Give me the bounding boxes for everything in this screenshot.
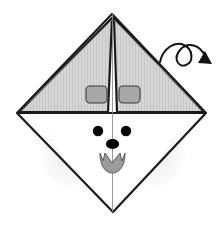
turn-over-arrow xyxy=(160,44,205,66)
turn-over-arrowhead xyxy=(198,51,212,64)
origami-diagram-canvas xyxy=(0,0,221,226)
left-eye xyxy=(93,126,103,136)
turn-over-arrow-group xyxy=(160,44,212,66)
right-ear-patch xyxy=(119,86,140,103)
left-ear-patch xyxy=(86,86,107,103)
right-eye xyxy=(121,126,131,136)
origami-figure xyxy=(0,0,221,226)
nose xyxy=(106,139,119,149)
